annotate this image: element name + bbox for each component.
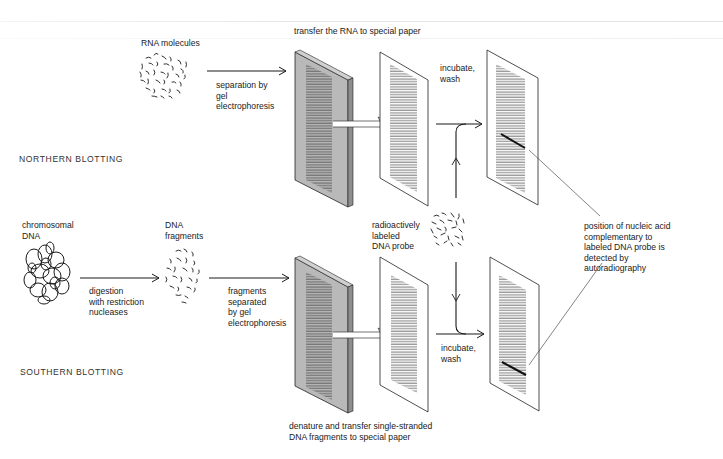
blot-paper-northern bbox=[380, 52, 428, 206]
northern-blotting-title: NORTHERN BLOTTING bbox=[19, 154, 123, 164]
result-label: position of nucleic acid complementary t… bbox=[584, 221, 670, 274]
probe-arrow-northern bbox=[436, 124, 482, 198]
digestion-label: digestion with restriction nucleases bbox=[89, 286, 144, 318]
northern-transfer-label: transfer the RNA to special paper bbox=[294, 26, 421, 37]
southern-blotting-title: SOUTHERN BLOTTING bbox=[20, 367, 124, 377]
blotting-diagram: transfer the RNA to special paper RNA mo… bbox=[0, 0, 723, 459]
southern-transfer-label: denature and transfer single-stranded DN… bbox=[289, 421, 432, 442]
southern-separation-label: fragments separated by gel electrophores… bbox=[228, 286, 286, 328]
pointer-line-southern bbox=[529, 263, 602, 365]
probe-label: radioactively labeled DNA probe bbox=[372, 220, 420, 252]
dna-probe-icon bbox=[431, 213, 464, 246]
chromosomal-dna-label: chromosomal DNA bbox=[22, 220, 74, 241]
northern-incubate-label: incubate, wash bbox=[440, 63, 475, 84]
southern-incubate-label: incubate, wash bbox=[441, 343, 476, 364]
dna-fragments-label: DNA fragments bbox=[165, 220, 203, 241]
northern-separation-label: separation by gel electrophoresis bbox=[216, 80, 274, 112]
probe-arrow-southern bbox=[436, 262, 484, 334]
blot-paper-southern bbox=[380, 257, 428, 412]
autoradiograph-northern bbox=[487, 50, 538, 205]
rna-molecules-icon bbox=[140, 53, 187, 98]
autoradiograph-southern bbox=[490, 257, 539, 411]
rna-molecules-label: RNA molecules bbox=[141, 38, 200, 49]
chromosomal-dna-tangle-icon bbox=[24, 242, 70, 304]
dna-fragments-icon bbox=[166, 249, 199, 303]
pointer-line-northern bbox=[529, 150, 600, 216]
gel-slab-northern bbox=[295, 50, 353, 207]
